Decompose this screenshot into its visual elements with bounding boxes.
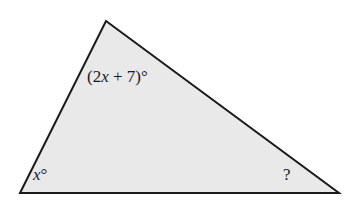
bottom-left-angle-label: x° bbox=[33, 166, 47, 183]
apex-angle-suffix: + 7)° bbox=[109, 67, 148, 86]
apex-angle-variable: x bbox=[101, 67, 109, 86]
bottom-left-angle-suffix: ° bbox=[41, 165, 48, 184]
triangle-shape bbox=[0, 0, 349, 202]
apex-angle-prefix: (2 bbox=[87, 67, 101, 86]
bottom-right-angle-label: ? bbox=[283, 166, 291, 183]
triangle-polygon bbox=[20, 21, 339, 193]
triangle-figure: (2x + 7)° x° ? bbox=[0, 0, 349, 202]
bottom-left-angle-variable: x bbox=[33, 165, 41, 184]
apex-angle-label: (2x + 7)° bbox=[87, 68, 148, 85]
